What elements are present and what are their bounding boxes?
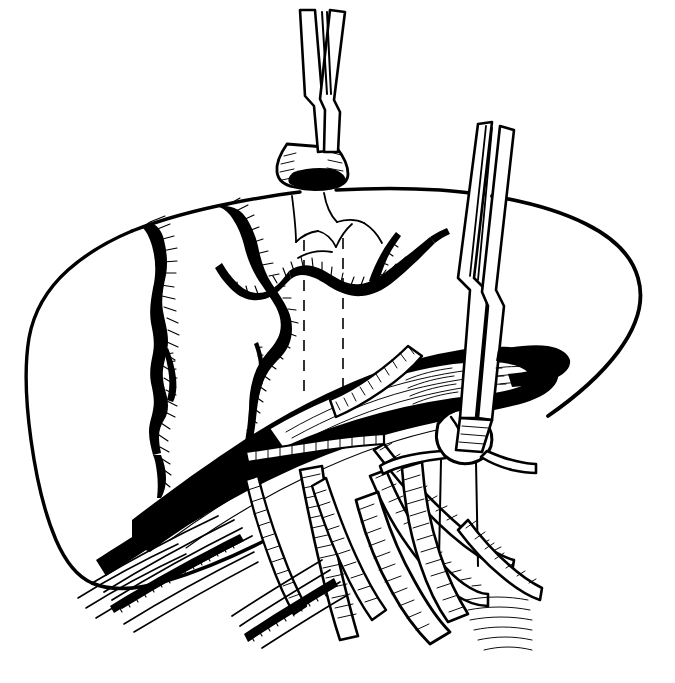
illustration-root: Hepatic hilar dissection large ovoid hep…: [0, 0, 675, 683]
hepatic-dissection-drawing: Hepatic hilar dissection large ovoid hep…: [0, 0, 675, 683]
